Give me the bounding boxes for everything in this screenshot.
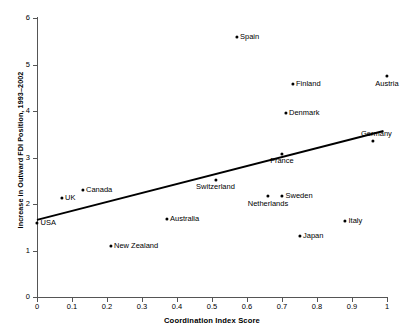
data-point-label: Canada (86, 186, 112, 194)
data-point-label: Italy (349, 217, 363, 225)
data-point-label: Sweden (286, 192, 313, 200)
data-point-label: USA (41, 219, 56, 227)
data-point-label: Australia (170, 215, 199, 223)
data-point-label: Netherlands (248, 200, 288, 208)
data-point-label: Spain (240, 33, 259, 41)
trend-line (0, 0, 410, 335)
data-point-label: UK (65, 194, 75, 202)
data-point-label: New Zealand (114, 242, 158, 250)
data-point-label: Finland (296, 80, 321, 88)
data-point-label: France (270, 157, 293, 165)
data-point-label: Germany (361, 130, 392, 138)
scatter-chart: Increase in Outward FDI Position, 1993–2… (0, 0, 410, 335)
data-point-label: Switzerland (196, 183, 235, 191)
data-point-label: Japan (303, 232, 323, 240)
data-point-label: Austria (375, 80, 398, 88)
data-point-label: Denmark (289, 109, 319, 117)
